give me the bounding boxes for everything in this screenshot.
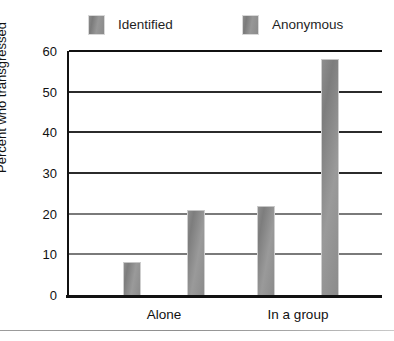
x-category-label-in-a-group: In a group [268,307,329,322]
y-tick-label-10: 10 [43,247,57,262]
bar-identified-alone[interactable] [123,262,141,295]
y-tick-label-50: 50 [43,84,57,99]
y-tick-label-30: 30 [43,166,57,181]
chart-legend: Identified Anonymous [0,13,394,39]
bottom-divider [0,330,394,331]
plot-area: 0102030405060 AloneIn a group [67,51,382,295]
y-tick-label-60: 60 [43,44,57,59]
bar-anonymous-in-a-group[interactable] [321,59,339,295]
y-tick-label-40: 40 [43,125,57,140]
x-category-label-alone: Alone [147,307,182,322]
y-axis-title: Percent who transgressed [0,22,9,173]
legend-swatch-icon-anonymous [242,15,259,35]
legend-label-anonymous: Anonymous [272,17,343,32]
gridline-60 [69,50,382,52]
y-tick-label-0: 0 [50,288,57,303]
legend-label-identified: Identified [118,17,173,32]
bar-identified-in-a-group[interactable] [257,206,275,295]
legend-swatch-icon-identified [88,15,105,35]
y-tick-label-20: 20 [43,206,57,221]
bar-anonymous-alone[interactable] [187,210,205,295]
x-axis-line [66,295,382,298]
